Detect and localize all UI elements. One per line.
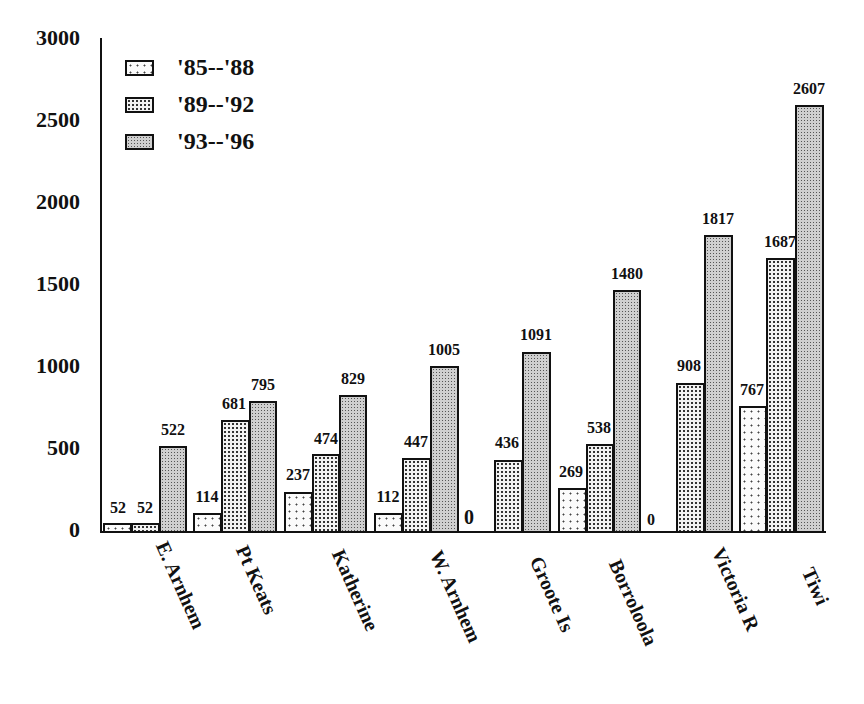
y-tick-2000: 2000 (0, 191, 80, 213)
bar-borroloola-93-96 (613, 290, 641, 533)
legend-swatch-89-92 (125, 97, 154, 113)
legend-swatch-85-88 (125, 60, 154, 76)
x-label-pt-keats: Pt Keats (231, 542, 282, 618)
legend-label: '85--'88 (177, 54, 254, 80)
value-label: 1091 (506, 327, 566, 343)
value-label: 269 (541, 464, 601, 480)
value-label: 795 (233, 377, 293, 393)
value-label: 474 (296, 431, 356, 447)
x-label-tiwi: Tiwi (797, 564, 834, 609)
value-label: 908 (659, 358, 719, 374)
bar-victoria-r-89-92 (676, 383, 705, 533)
value-label: 1817 (688, 211, 748, 227)
value-label: 114 (177, 489, 237, 505)
y-tick-500: 500 (0, 437, 80, 459)
bar-chart: 3000 2500 2000 1500 1000 500 0 '85--'88 … (0, 0, 864, 704)
legend-swatch-93-96 (125, 134, 154, 150)
bar-katherine-93-96 (339, 395, 367, 533)
value-label: 52 (115, 500, 175, 516)
y-tick-3000: 3000 (0, 27, 80, 49)
value-label: 1005 (414, 342, 474, 358)
bar-tiwi-93-96 (795, 105, 824, 533)
value-label: 681 (204, 396, 264, 412)
bar-tiwi-85-88 (739, 406, 767, 533)
x-label-borroloola: Borroloola (604, 556, 662, 649)
value-label: 2607 (779, 81, 839, 97)
value-label: 767 (722, 382, 782, 398)
bar-borroloola-85-88 (558, 488, 587, 533)
bar-katherine-85-88 (284, 492, 313, 533)
y-tick-2500: 2500 (0, 109, 80, 131)
bar-pt-keats-89-92 (221, 420, 250, 533)
x-label-e-arnhem: E. Arnhem (151, 538, 210, 633)
bar-groote-is-89-92 (494, 460, 523, 533)
value-label: 237 (268, 467, 328, 483)
x-label-groote-is: Groote Is (525, 553, 579, 636)
x-label-victoria-r: Victoria R (707, 544, 764, 634)
bar-borroloola-89-92 (586, 444, 614, 533)
x-label-katherine: Katherine (327, 546, 383, 635)
y-axis-line (100, 38, 102, 533)
value-label: 112 (358, 489, 418, 505)
bar-e-arnhem-89-92 (131, 523, 160, 533)
y-tick-1000: 1000 (0, 355, 80, 377)
value-label-zero: 0 (647, 510, 655, 530)
value-label: 522 (143, 422, 203, 438)
value-label: 1687 (750, 234, 810, 250)
value-label-zero: 0 (464, 507, 474, 527)
value-label: 829 (323, 371, 383, 387)
bar-e-arnhem-85-88 (103, 523, 132, 533)
bar-pt-keats-85-88 (193, 513, 222, 533)
value-label: 538 (569, 420, 629, 436)
x-label-w-arnhem: W. Arnhem (425, 547, 486, 646)
value-label: 447 (386, 434, 446, 450)
bar-katherine-89-92 (312, 454, 340, 533)
y-tick-1500: 1500 (0, 273, 80, 295)
y-tick-0: 0 (0, 519, 80, 541)
legend-label: '93--'96 (177, 128, 254, 154)
legend-label: '89--'92 (177, 91, 254, 117)
value-label: 436 (477, 435, 537, 451)
value-label: 1480 (597, 266, 657, 282)
bar-w-arnhem-85-88 (374, 513, 403, 533)
